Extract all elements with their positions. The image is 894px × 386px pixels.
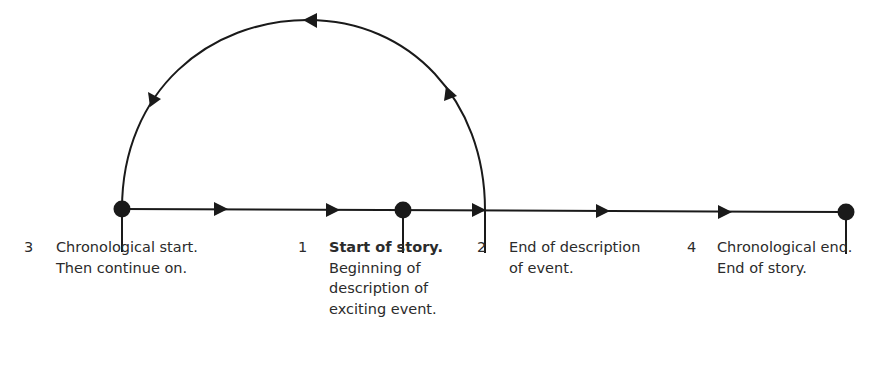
flashback-arc	[122, 20, 485, 210]
arrow-right-icon	[596, 204, 610, 218]
label-line-bold: Start of story.	[329, 237, 443, 258]
label-line: exciting event.	[329, 299, 443, 320]
label-description-end: 2 End of description of event.	[477, 237, 677, 282]
arrow-right-icon	[718, 205, 732, 219]
label-number: 2	[477, 237, 486, 258]
label-line: Chronological end.	[717, 237, 852, 258]
node-story-start	[395, 202, 412, 219]
label-line: description of	[329, 278, 443, 299]
label-line: of event.	[509, 258, 640, 279]
label-story-start: 1 Start of story. Beginning of descripti…	[298, 237, 458, 327]
label-line: Then continue on.	[56, 258, 198, 279]
node-chronological-start	[114, 201, 131, 218]
arrow-right-icon	[214, 202, 228, 216]
label-number: 4	[687, 237, 696, 258]
arrow-down-left-icon	[148, 92, 161, 107]
label-number: 1	[298, 237, 307, 258]
label-chronological-end: 4 Chronological end. End of story.	[687, 237, 887, 282]
arrow-left-icon	[303, 13, 317, 28]
label-line: End of description	[509, 237, 640, 258]
label-chronological-start: 3 Chronological start. Then continue on.	[24, 237, 224, 282]
node-chronological-end	[838, 204, 855, 221]
label-line: Beginning of	[329, 258, 443, 279]
timeline-diagram	[0, 0, 894, 386]
label-number: 3	[24, 237, 33, 258]
label-line: Chronological start.	[56, 237, 198, 258]
label-line: End of story.	[717, 258, 852, 279]
arrow-right-icon	[472, 203, 486, 217]
arrow-right-icon	[326, 203, 340, 217]
